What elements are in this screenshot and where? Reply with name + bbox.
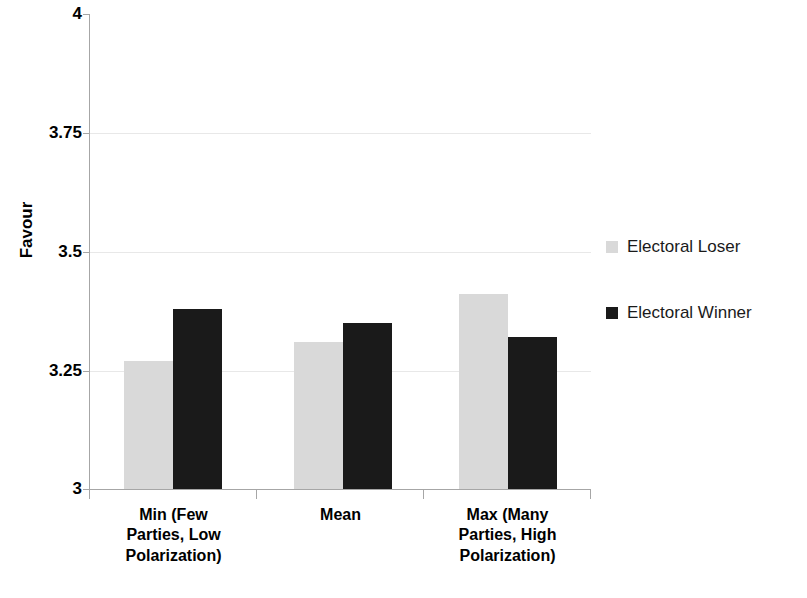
bar-max-loser bbox=[459, 294, 508, 489]
x-category-label-min: Min (Few Parties, Low Polarization) bbox=[106, 505, 241, 566]
y-tick-label-325: 3.25 bbox=[12, 362, 82, 379]
x-category-label-max-line3: Polarization) bbox=[440, 546, 575, 566]
y-tick-label-35: 3.5 bbox=[12, 243, 82, 260]
legend-item-electoral-loser: Electoral Loser bbox=[606, 238, 740, 255]
bar-min-winner bbox=[173, 309, 222, 490]
bar-min-loser bbox=[124, 361, 173, 489]
x-category-label-max: Max (Many Parties, High Polarization) bbox=[440, 505, 575, 566]
legend-label-winner: Electoral Winner bbox=[627, 304, 752, 321]
legend-item-electoral-winner: Electoral Winner bbox=[606, 304, 752, 321]
bar-chart-figure: Favour 4 3.75 3.5 3.25 3 bbox=[0, 0, 807, 598]
bar-mean-loser bbox=[294, 342, 343, 489]
x-category-label-mean: Mean bbox=[273, 505, 408, 525]
plot-area bbox=[90, 14, 591, 489]
x-sep-tick-3 bbox=[590, 490, 591, 499]
x-category-label-min-line2: Parties, Low bbox=[106, 525, 241, 545]
y-tick-label-4: 4 bbox=[12, 5, 82, 22]
x-sep-tick-0 bbox=[89, 490, 90, 499]
x-category-label-max-line1: Max (Many bbox=[440, 505, 575, 525]
x-sep-tick-2 bbox=[423, 490, 424, 499]
x-axis-line bbox=[89, 489, 591, 490]
bar-mean-winner bbox=[343, 323, 392, 489]
x-category-label-max-line2: Parties, High bbox=[440, 525, 575, 545]
x-category-label-min-line1: Min (Few bbox=[106, 505, 241, 525]
x-sep-tick-1 bbox=[256, 490, 257, 499]
x-category-label-mean-line1: Mean bbox=[273, 505, 408, 525]
legend-swatch-winner bbox=[606, 307, 618, 319]
y-axis-title: Favour bbox=[17, 185, 37, 275]
x-category-label-min-line3: Polarization) bbox=[106, 546, 241, 566]
y-tick-label-375: 3.75 bbox=[12, 124, 82, 141]
legend-label-loser: Electoral Loser bbox=[627, 238, 740, 255]
bar-max-winner bbox=[508, 337, 557, 489]
legend-swatch-loser bbox=[606, 241, 618, 253]
y-tick-label-3: 3 bbox=[12, 480, 82, 497]
